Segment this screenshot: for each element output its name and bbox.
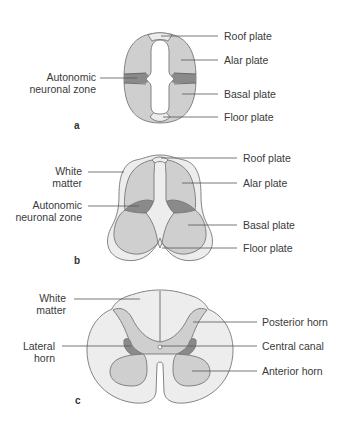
label-white-matter-b-line1: White (55, 165, 82, 177)
label-white-matter-b-line2: matter (52, 177, 82, 189)
label-autonomic-a-line1: Autonomic (46, 71, 96, 83)
panel-b: Roof plate White matter Alar plate Auton… (15, 152, 295, 266)
label-roof-plate-a: Roof plate (224, 30, 272, 42)
label-floor-plate-a: Floor plate (224, 111, 274, 123)
label-alar-plate-b: Alar plate (243, 177, 288, 189)
panel-letter-c: c (75, 395, 81, 406)
panel-letter-b: b (74, 255, 80, 266)
label-autonomic-b-line1: Autonomic (32, 199, 82, 211)
spinal-cord-development-figure: Roof plate Alar plate Autonomic neuronal… (0, 0, 340, 423)
label-autonomic-a-line2: neuronal zone (29, 83, 96, 95)
label-posterior-horn: Posterior horn (262, 316, 328, 328)
label-white-matter-c-line1: White (39, 292, 66, 304)
label-roof-plate-b: Roof plate (243, 152, 291, 164)
label-lateral-horn-line2: horn (34, 352, 55, 364)
label-lateral-horn-line1: Lateral (23, 340, 55, 352)
panel-letter-a: a (74, 120, 80, 131)
label-basal-plate-a: Basal plate (224, 88, 276, 100)
label-central-canal: Central canal (262, 340, 324, 352)
label-white-matter-c-line2: matter (36, 304, 66, 316)
panel-a: Roof plate Alar plate Autonomic neuronal… (29, 30, 276, 131)
label-basal-plate-b: Basal plate (243, 219, 295, 231)
label-autonomic-b-line2: neuronal zone (15, 211, 82, 223)
label-alar-plate-a: Alar plate (224, 54, 269, 66)
panel-c: White matter Posterior horn Lateral horn… (23, 290, 328, 406)
label-anterior-horn: Anterior horn (262, 365, 323, 377)
label-floor-plate-b: Floor plate (243, 242, 293, 254)
